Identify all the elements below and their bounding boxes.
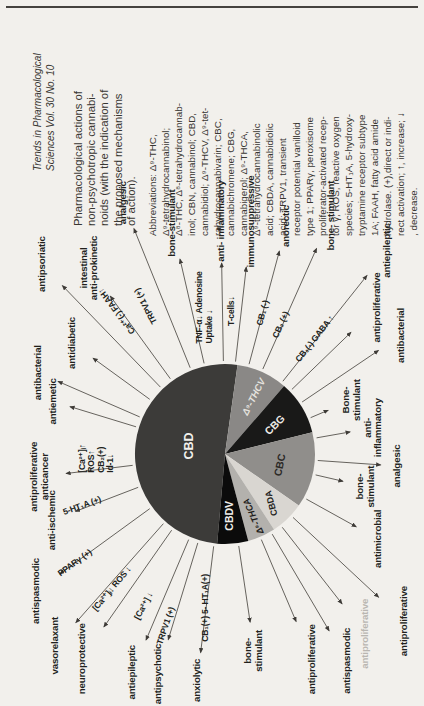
slice-label-cbg: CBG	[263, 413, 288, 438]
mechanism-label-cb: CB₁ (-)	[255, 299, 271, 326]
action-label-antiproliferative: antiproliferative	[399, 586, 410, 656]
action-label-antiepileptic: antiepileptic	[127, 645, 138, 700]
action-label-antipsychotic: antipsychotic	[152, 644, 163, 705]
figure-abbreviations: Abbreviations: Δ⁹-THC, Δ⁹-tetrahydrocann…	[146, 103, 420, 236]
figure-caption: Pharmacological actions of non-psychotro…	[72, 90, 138, 226]
mechanism-label-ca-faah: Ca²⁺(-) FAAH↑	[97, 286, 137, 335]
action-label-antispasmodic: antispasmodic	[31, 558, 42, 624]
action-label-anxiolytic: anxiolytic	[192, 659, 203, 702]
action-label-antibacterial: antibacterial	[33, 345, 44, 400]
slice-label-cbdv: CBDV	[225, 501, 236, 531]
action-label-vasorelaxant: vasorelaxant	[50, 617, 61, 675]
mechanism-label-trpv1: TRPV1 (+)	[155, 606, 176, 646]
action-label-analgesic: analgesic	[391, 445, 402, 488]
action-label-bone-stimulant: Bone- stimulant	[341, 379, 362, 421]
slice-label-thca: Δ⁹-THCA	[242, 496, 266, 535]
action-label-antibacterial: antibacterial	[395, 308, 406, 363]
rotated-figure-canvas: anxiolyticantipsychoticantiepilepticneur…	[0, 0, 424, 706]
mechanism-label-t-cells: T-cells↓	[228, 296, 237, 325]
mechanism-label-cb-gaba: CB₁(-) GABA ↑	[294, 314, 336, 364]
mechanism-label-ppar: PPARγ (+)	[57, 547, 94, 578]
mechanism-label-ca-ros: [Ca²⁺]ᵢ↓ ROS ↓	[91, 565, 133, 613]
action-label-antiproliferative: antiproliferative	[360, 599, 371, 669]
mechanism-label-ca: [Ca²⁺] ↓	[133, 591, 155, 622]
action-label-anti-inflammatory: anti- inflammatory	[363, 398, 384, 457]
action-label-antiproliferative: antiproliferative	[371, 272, 382, 342]
action-label-antiemetic: antiemetic	[48, 378, 59, 424]
action-label-antispasmodic: antispasmodic	[342, 628, 353, 694]
mechanism-label-cb: CB₂ (+)	[271, 310, 291, 339]
slice-label-cbc: CBC	[272, 452, 288, 477]
slice-label-cbd: CBD	[183, 432, 197, 459]
action-label-bone-stimulant: bone- stimulant	[244, 630, 265, 672]
action-label-antiproliferative: antiproliferative	[307, 624, 318, 694]
mechanism-label-cb-5-ht-a: CB₁(+) 5- HT₁A(+)	[201, 574, 210, 642]
action-label-antipsoriatic: antipsoriatic	[36, 236, 47, 292]
slice-label-thcv: Δ⁹-THCV	[240, 377, 267, 417]
mechanism-label-5-ht-a: 5-HT₁A (+)	[62, 495, 102, 517]
action-label-antimicrobial: antimicrobial	[373, 510, 384, 568]
action-label-antiproliferative-anticancer: antiproliferative anticancer	[30, 442, 51, 512]
action-label-neuroprotective: neuroprotective	[76, 623, 87, 694]
action-label-bone-stimulant: bone- stimulant	[356, 466, 377, 508]
journal-figure-page: anxiolyticantipsychoticantiepilepticneur…	[0, 0, 424, 706]
journal-citation: Trends in Pharmacological Sciences Vol. …	[31, 53, 57, 171]
mechanism-label-ca-ros-cb-id-1: [Ca²⁺]ᵢ↑ ROS↑ CB₂(+) Id-1↓	[79, 444, 116, 472]
action-label-antidiabetic: antidiabetic	[67, 317, 78, 369]
slice-label-cbda: CBDA	[264, 489, 280, 517]
mechanism-label-tnf-adenosine-uptake: TNF-α↓ Adenosine Uptake ↓	[195, 271, 214, 343]
mechanism-label-trpv1: TRPV1 (+)	[133, 286, 160, 325]
